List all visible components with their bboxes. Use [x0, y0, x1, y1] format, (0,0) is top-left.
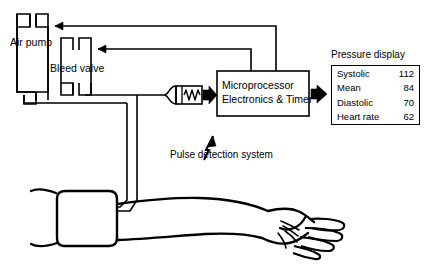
table-row: Mean 84	[332, 81, 419, 96]
arrow-mp-to-display	[311, 85, 327, 103]
transducer-body	[176, 86, 202, 104]
bleed-valve-top-left-stem	[61, 38, 73, 50]
display-row-name: Diastolic	[332, 95, 391, 110]
arrow-transducer-to-mp	[203, 86, 217, 104]
bleed-valve-right-leg	[79, 83, 91, 95]
hand-palm-crease	[278, 233, 286, 248]
cuff-shape	[57, 191, 117, 246]
bp-measurement-diagram: Air pump Bleed valve Microprocessor Elec…	[0, 0, 427, 267]
bleed-valve-top-right-stem	[79, 38, 91, 50]
pressure-display-table-body: Systolic 112 Mean 84 Diastolic 70 Heart …	[332, 66, 419, 124]
feedback-arrowhead-bleed-valve	[98, 45, 106, 53]
display-row-value: 62	[391, 110, 419, 125]
display-row-name: Heart rate	[332, 110, 391, 125]
display-row-value: 112	[391, 66, 419, 81]
pneumatic-bus-lower	[24, 95, 127, 103]
display-row-value: 84	[391, 81, 419, 96]
display-row-name: Mean	[332, 81, 391, 96]
microprocessor-label-line2: Electronics & Timer	[222, 94, 312, 105]
table-row: Diastolic 70	[332, 95, 419, 110]
bleed-valve-label: Bleed valve	[50, 63, 104, 74]
forearm-outline-bottom	[117, 234, 262, 240]
table-row: Heart rate 62	[332, 110, 419, 125]
air-pump-shape	[17, 14, 48, 100]
hand-palm-outline	[268, 209, 314, 222]
diagram-canvas	[0, 0, 427, 267]
forearm-outline-top	[117, 198, 268, 211]
pressure-display-label: Pressure display	[331, 50, 405, 60]
feedback-line-to-bleed-valve	[98, 49, 251, 71]
air-pump-label: Air pump	[10, 37, 52, 48]
pressure-display-box: Systolic 112 Mean 84 Diastolic 70 Heart …	[331, 65, 420, 125]
display-row-name: Systolic	[332, 66, 391, 81]
hand-knuckle-crease-3	[285, 231, 297, 242]
bleed-valve-left-leg	[61, 83, 73, 95]
pressure-display-table: Systolic 112 Mean 84 Diastolic 70 Heart …	[332, 66, 419, 124]
display-row-value: 70	[391, 95, 419, 110]
table-row: Systolic 112	[332, 66, 419, 81]
upper-arm-outline	[31, 190, 56, 193]
microprocessor-label-line1: Microprocessor	[222, 80, 294, 91]
air-pump-top-left-stem	[17, 14, 30, 27]
air-pump-top-right-stem	[36, 14, 48, 27]
pulse-detection-system-label: Pulse detection system	[170, 150, 273, 160]
feedback-arrowhead-air-pump	[55, 22, 63, 30]
upper-arm-outline-lower	[31, 243, 57, 246]
transducer-funnel	[158, 86, 176, 104]
strain-gauge-icon	[184, 90, 200, 100]
